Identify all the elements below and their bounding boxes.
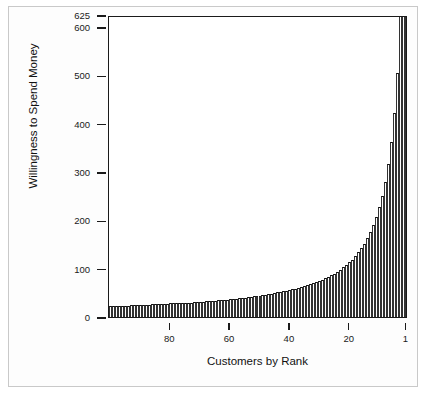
y-tick-label: 0 xyxy=(56,313,90,322)
x-tick-label: 20 xyxy=(334,333,364,344)
y-tick-mark xyxy=(97,27,106,28)
bar xyxy=(405,16,407,317)
y-tick-label: 100 xyxy=(56,265,90,274)
y-tick-label: 600 xyxy=(56,23,90,32)
y-axis-label: Willingness to Spend Money xyxy=(27,21,39,211)
y-tick-mark xyxy=(97,317,106,318)
x-tick-mark xyxy=(348,323,349,330)
y-tick-mark xyxy=(97,269,106,270)
y-tick-label: 200 xyxy=(56,216,90,225)
plot-area xyxy=(108,16,407,318)
x-tick-mark xyxy=(405,323,406,330)
y-tick-label: 625 xyxy=(56,11,90,20)
x-tick-mark xyxy=(228,323,229,330)
y-tick-mark xyxy=(97,15,106,16)
chart-figure: Willingness to Spend Money 0100200300400… xyxy=(0,0,429,398)
x-axis-label: Customers by Rank xyxy=(108,355,407,367)
x-tick-mark xyxy=(288,323,289,330)
plot-inner xyxy=(109,17,406,317)
y-tick-label: 300 xyxy=(56,168,90,177)
x-tick-label: 1 xyxy=(391,333,421,344)
x-tick-label: 80 xyxy=(154,333,184,344)
y-tick-mark xyxy=(97,124,106,125)
y-tick-mark xyxy=(97,172,106,173)
y-tick-mark xyxy=(97,221,106,222)
y-tick-mark xyxy=(97,76,106,77)
y-tick-label: 400 xyxy=(56,120,90,129)
y-tick-label: 500 xyxy=(56,71,90,80)
x-tick-mark xyxy=(169,323,170,330)
x-tick-label: 40 xyxy=(274,333,304,344)
x-tick-label: 60 xyxy=(214,333,244,344)
